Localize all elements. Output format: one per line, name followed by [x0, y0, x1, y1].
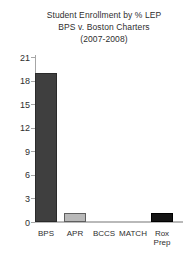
- y-tick-label: 3: [0, 194, 30, 204]
- y-tick-label: 18: [0, 76, 30, 86]
- x-axis-label-match: MATCH: [118, 229, 148, 238]
- bar-rox-prep: [151, 213, 173, 222]
- y-tick-label: 15: [0, 100, 30, 110]
- x-axis-label-bps: BPS: [31, 229, 61, 238]
- bar-chart: Student Enrollment by % LEP BPS v. Bosto…: [0, 0, 187, 259]
- y-tick-label: 6: [0, 170, 30, 180]
- y-tick-mark: [31, 222, 35, 223]
- x-axis-label-bccs: BCCS: [89, 229, 119, 238]
- x-axis-label-rox-prep: Rox Prep: [147, 229, 177, 247]
- x-axis-label-apr: APR: [60, 229, 90, 238]
- y-tick-label: 0: [0, 218, 30, 228]
- bar-apr: [64, 213, 86, 222]
- y-tick-label: 21: [0, 53, 30, 63]
- y-tick-label: 12: [0, 123, 30, 133]
- plot-area: 036912151821 BPSAPRBCCSMATCHRox Prep: [0, 0, 187, 259]
- y-tick-label: 9: [0, 147, 30, 157]
- bar-bps: [35, 73, 57, 222]
- y-tick-mark: [31, 57, 35, 58]
